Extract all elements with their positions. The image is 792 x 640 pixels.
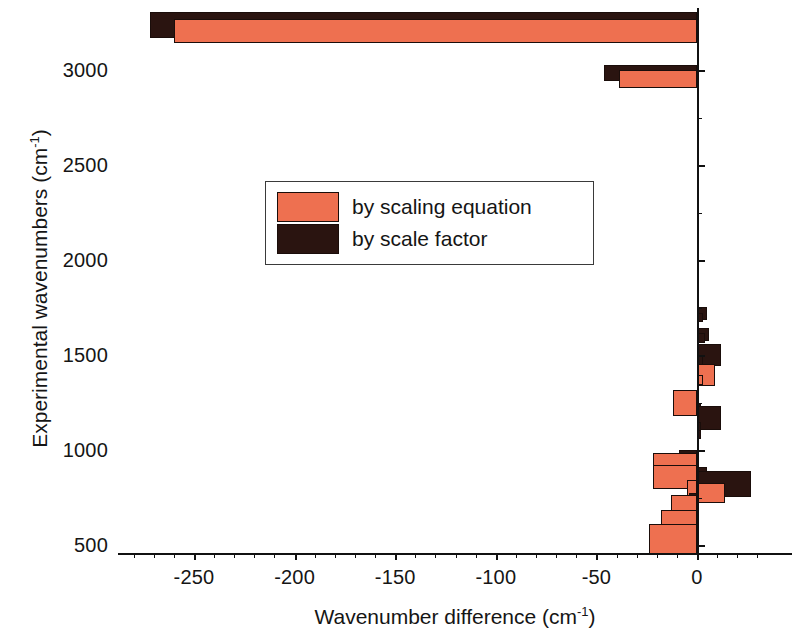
x-axis-tick (435, 553, 436, 558)
x-axis-tick (154, 553, 155, 558)
y-axis-tick (697, 545, 705, 547)
x-axis-tick (234, 553, 235, 558)
x-axis-tick-label: -250 (174, 566, 215, 589)
x-axis-tick (617, 553, 618, 558)
bar-scaling-equation (619, 70, 697, 88)
x-axis-tick (516, 553, 517, 558)
bar-scaling-equation (174, 19, 697, 43)
x-axis-tick (375, 553, 376, 558)
y-axis-tick-label: 2000 (63, 249, 108, 272)
x-axis-tick (697, 553, 699, 560)
x-axis-tick (194, 553, 196, 560)
legend-swatch-scale-factor (277, 224, 339, 254)
y-axis-title: Experimental wavenumbers (cm-1) (27, 9, 52, 569)
x-axis-tick (476, 553, 477, 558)
y-tick-label-layer: 50010001500200025003000 (0, 0, 108, 640)
zero-reference-line (697, 8, 699, 554)
y-axis-title-tail: ) (28, 129, 51, 136)
x-axis-tick (737, 553, 738, 558)
x-axis-tick (596, 553, 598, 560)
y-axis-title-superscript: -1 (27, 136, 42, 148)
bar-scaling-equation (673, 390, 697, 416)
legend-item-scaling-equation: by scaling equation (277, 191, 581, 223)
y-axis-tick-label: 3000 (63, 59, 108, 82)
y-axis-tick-label: 500 (74, 534, 108, 557)
x-axis-tick (214, 553, 215, 558)
x-axis-tick (496, 553, 498, 560)
plot-area (118, 8, 792, 553)
chart-legend: by scaling equation by scale factor (265, 181, 594, 265)
y-axis-tick (697, 70, 705, 72)
x-axis-tick-label: 0 (691, 566, 702, 589)
x-axis-tick (717, 553, 718, 558)
x-axis-tick (355, 553, 356, 558)
x-axis-tick (536, 553, 537, 558)
legend-item-scale-factor: by scale factor (277, 223, 581, 255)
x-axis-tick (456, 553, 457, 558)
x-axis-title-text: Wavenumber difference (cm (314, 605, 577, 628)
x-axis-title-superscript: -1 (577, 604, 589, 619)
x-axis-tick (315, 553, 316, 558)
x-axis-tick-label: -100 (475, 566, 516, 589)
x-axis-tick (395, 553, 397, 560)
legend-swatch-scaling-equation (277, 192, 339, 222)
chart-figure: -250-200-150-100-500 5001000150020002500… (0, 0, 792, 640)
x-axis-tick (134, 553, 135, 558)
x-axis-tick-label: -50 (582, 566, 612, 589)
y-axis-tick (697, 308, 702, 309)
x-axis-tick (657, 553, 658, 558)
y-axis-title-text: Experimental wavenumbers (cm (28, 148, 51, 448)
x-axis-tick-label: -150 (375, 566, 416, 589)
y-axis-tick (697, 403, 702, 404)
bar-scaling-equation (697, 483, 725, 503)
legend-label-scale-factor: by scale factor (352, 227, 487, 251)
y-axis-tick (697, 498, 702, 499)
y-axis-tick-label: 1000 (63, 439, 108, 462)
y-axis-tick (697, 118, 702, 119)
x-axis-tick (415, 553, 416, 558)
y-axis-tick (697, 165, 705, 167)
x-axis-tick (295, 553, 297, 560)
x-axis-tick (274, 553, 275, 558)
x-axis-tick (174, 553, 175, 558)
y-axis-tick (697, 450, 705, 452)
bar-scaling-equation (649, 524, 697, 554)
y-axis-tick-label: 2500 (63, 154, 108, 177)
x-axis-tick (254, 553, 255, 558)
x-axis-tick (335, 553, 336, 558)
legend-label-scaling-equation: by scaling equation (352, 195, 532, 219)
y-axis-tick (697, 355, 705, 357)
x-axis-title-tail: ) (589, 605, 596, 628)
x-axis-tick (556, 553, 557, 558)
x-axis-tick (637, 553, 638, 558)
x-axis-title: Wavenumber difference (cm-1) (118, 604, 792, 629)
y-axis-tick (697, 213, 702, 214)
x-axis-tick (576, 553, 577, 558)
x-axis-tick-label: -200 (274, 566, 315, 589)
x-axis-tick (757, 553, 758, 558)
y-axis-tick-label: 1500 (63, 344, 108, 367)
x-axis-tick (677, 553, 678, 558)
y-axis-tick (697, 260, 705, 262)
